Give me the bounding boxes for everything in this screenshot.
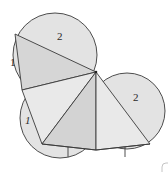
label-lower-left-side: 1 xyxy=(25,114,31,126)
corner-frame-fragment xyxy=(162,163,168,172)
geometric-diagram: 2 1 1 2 xyxy=(0,0,168,172)
label-top-left-side: 1 xyxy=(10,56,16,68)
label-top-circle: 2 xyxy=(57,30,63,42)
diagram-stage: 2 1 1 2 xyxy=(0,0,168,172)
hub-point xyxy=(95,71,98,74)
label-right-circle: 2 xyxy=(133,91,139,103)
